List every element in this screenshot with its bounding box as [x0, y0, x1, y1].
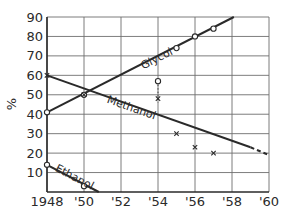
glycol-circle-marker — [174, 46, 179, 51]
x-tick-label: '50 — [74, 194, 94, 209]
y-tick-label: 90 — [26, 10, 43, 25]
y-tick-label: 80 — [26, 29, 43, 44]
y-tick-label: 20 — [26, 146, 43, 161]
ethanol-series-label: Ethanol — [53, 162, 96, 193]
y-tick-label: 70 — [26, 48, 43, 63]
y-tick-label: 60 — [26, 68, 43, 83]
x-tick-label: '54 — [148, 194, 168, 209]
tick-labels: 1020304050607080901948'50'52'54'56'58'60… — [26, 10, 279, 210]
chart: 1020304050607080901948'50'52'54'56'58'60… — [0, 0, 284, 210]
y-tick-label: 30 — [26, 126, 43, 141]
y-tick-label: 50 — [26, 87, 43, 102]
grid — [47, 17, 269, 192]
glycol-circle-marker — [44, 110, 49, 115]
x-tick-label: 1948 — [30, 194, 63, 209]
x-tick-label: '58 — [222, 194, 242, 209]
methanol-dashed-extension — [251, 147, 270, 155]
glycol-circle-marker — [192, 34, 197, 39]
y-tick-label: 40 — [26, 107, 43, 122]
x-tick-label: '60 — [259, 194, 279, 209]
x-tick-label: '56 — [185, 194, 205, 209]
glycol-circle-marker — [155, 79, 160, 84]
glycol-series-label: Glycol — [139, 45, 175, 72]
methanol-series-label: Methanol — [105, 93, 157, 122]
y-axis-label: % — [4, 98, 19, 110]
glycol-circle-marker — [211, 26, 216, 31]
x-tick-label: '52 — [111, 194, 131, 209]
ethanol-circle-marker — [44, 162, 49, 167]
y-tick-label: 10 — [26, 165, 43, 180]
